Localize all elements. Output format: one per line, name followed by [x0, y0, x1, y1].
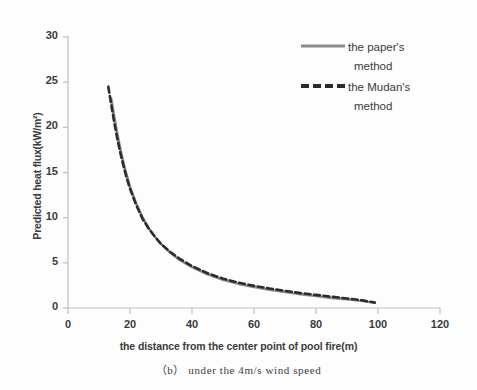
legend-item-paper-method: the paper's method: [300, 38, 475, 76]
x-axis-tick-label: 40: [172, 318, 212, 330]
x-axis-tick-label: 0: [48, 318, 88, 330]
y-axis-tick-label: 25: [28, 74, 58, 86]
legend-label-paper-method-line1: the paper's: [348, 41, 405, 53]
legend-swatch-dashed-line-icon: [300, 79, 348, 93]
legend-label-mudan-method-line1: the Mudan's: [348, 81, 410, 93]
figure-container: Predicted heat flux(kW/m²) 051015202530 …: [0, 0, 477, 390]
y-axis-tick-label: 10: [28, 210, 58, 222]
series-layer: [108, 87, 375, 303]
x-axis-tick-label: 20: [110, 318, 150, 330]
y-axis-tick-label: 15: [28, 165, 58, 177]
figure-caption: （b） under the 4m/s wind speed: [0, 361, 477, 377]
y-axis-tick-label: 30: [28, 29, 58, 41]
y-axis-tick-label: 0: [28, 300, 58, 312]
legend-label-paper-method: the paper's method: [348, 38, 405, 76]
legend-item-mudan-method: the Mudan's method: [300, 78, 475, 116]
x-axis-tick-label: 120: [420, 318, 460, 330]
legend-label-mudan-method: the Mudan's method: [348, 78, 410, 116]
y-axis-tick-label: 20: [28, 119, 58, 131]
x-axis-title: the distance from the center point of po…: [0, 340, 477, 352]
y-axis-tick-label: 5: [28, 255, 58, 267]
legend-label-mudan-method-line2: method: [348, 97, 410, 116]
x-axis-tick-label: 100: [358, 318, 398, 330]
legend-label-paper-method-line2: method: [348, 57, 405, 76]
series-line-paper-method: [111, 98, 375, 303]
series-line-mudan-method: [108, 87, 375, 303]
chart-legend: the paper's method the Mudan's method: [300, 38, 475, 118]
x-axis-tick-label: 80: [296, 318, 336, 330]
legend-swatch-solid-line-icon: [300, 39, 348, 53]
x-axis-tick-label: 60: [234, 318, 274, 330]
